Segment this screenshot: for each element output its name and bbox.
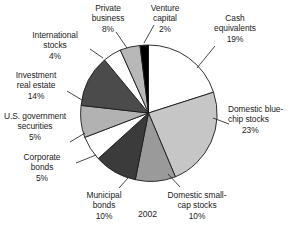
slice-label-line2: equivalents [214, 23, 256, 33]
slice-label-corporate-bonds: Corporate bonds 5% [10, 152, 74, 183]
leader-line-us-government-securities [70, 133, 85, 142]
slice-label-line1: Private [95, 3, 121, 13]
slice-label-domestic-blue-chip-stocks: Domestic blue- chip stocks 23% [228, 104, 295, 135]
slice-percent: 23% [228, 125, 295, 135]
slice-label-line1: Venture [151, 3, 180, 13]
slice-label-investment-real-estate: Investment real estate 14% [3, 70, 69, 101]
slice-label-line1: Municipal [87, 190, 122, 200]
slice-label-line2: business [92, 13, 125, 23]
slice-label-line1: Corporate [24, 152, 61, 162]
leader-line-corporate-bonds [76, 155, 96, 163]
slice-label-line1: Cash [225, 13, 244, 23]
pie-chart: Cash equivalents 19% Domestic blue- chip… [0, 0, 295, 232]
slice-percent: 5% [10, 173, 74, 183]
slice-label-line2: bonds [31, 162, 54, 172]
slice-percent: 5% [0, 132, 70, 142]
slice-label-line2: stocks [43, 40, 66, 50]
chart-year-label: 2002 [0, 209, 295, 219]
slice-percent: 14% [3, 91, 69, 101]
slice-percent: 2% [137, 24, 193, 34]
slice-label-international-stocks: International stocks 4% [22, 30, 88, 61]
pie-slices [81, 45, 218, 181]
slice-percent: 4% [22, 51, 88, 61]
slice-label-us-government-securities: U.S. government securities 5% [0, 111, 70, 142]
leader-line-private-business [116, 32, 127, 48]
slice-label-line1: Domestic small- [168, 190, 227, 200]
slice-percent: 19% [196, 34, 274, 44]
slice-label-line1: Domestic blue- [228, 104, 283, 114]
leader-line-cash-equivalents [197, 46, 215, 68]
slice-label-private-business: Private business 8% [79, 3, 137, 34]
slice-label-venture-capital: Venture capital 2% [137, 3, 193, 34]
leader-line-investment-real-estate [67, 91, 82, 100]
slice-label-line2: real estate [17, 80, 56, 90]
slice-label-line2: chip stocks [228, 114, 269, 124]
slice-label-line2: securities [18, 121, 53, 131]
slice-label-line1: International [32, 30, 77, 40]
leader-line-international-stocks [90, 49, 103, 58]
slice-label-line1: Investment [16, 70, 56, 80]
leader-line-municipal-bonds [119, 178, 128, 188]
slice-percent: 8% [79, 24, 137, 34]
slice-label-line2: capital [153, 13, 177, 23]
slice-label-cash-equivalents: Cash equivalents 19% [196, 13, 274, 44]
slice-label-line1: U.S. government [4, 111, 66, 121]
